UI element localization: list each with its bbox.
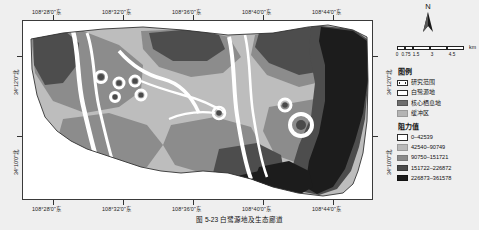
- legend-swatch: [397, 165, 408, 172]
- scale-bar-tick-label: 3: [431, 52, 434, 57]
- lon-tick-label: 108°36'0"东: [172, 8, 201, 16]
- lat-tick-label: 34°12'0"北: [12, 70, 20, 95]
- legend-item-label: 90750–151721: [411, 154, 448, 161]
- legend-swatch: [397, 134, 408, 141]
- scale-bar-tick-label: 4.5: [449, 52, 455, 57]
- lon-tick-label: 108°36'0"东: [172, 205, 201, 213]
- legend-item-label: 研究范围: [411, 79, 435, 86]
- lat-tick-mark: [373, 56, 378, 57]
- scale-bar-unit: km: [469, 44, 476, 50]
- legend-swatch: [397, 90, 408, 97]
- legend: 图例 研究范围 白鹭源地 核心栖息地 缓冲区 阻力值 0–42539 42540…: [397, 66, 477, 184]
- lon-tick-label: 108°40'0"东: [242, 8, 271, 16]
- lon-tick-mark: [53, 200, 54, 205]
- legend-item-label: 151722–226872: [411, 165, 451, 172]
- legend-resistance-class-4[interactable]: 151722–226872: [397, 163, 477, 173]
- legend-item-label: 226873–361578: [411, 175, 451, 182]
- legend-swatch: [397, 110, 408, 117]
- lon-tick-mark: [123, 200, 124, 205]
- lon-tick-label: 108°28'0"东: [32, 205, 61, 213]
- legend-resistance-class-2[interactable]: 42540–90749: [397, 143, 477, 153]
- lat-tick-label: 34°10'0"北: [12, 150, 20, 175]
- scale-bar-tick-label: 1.5: [413, 52, 419, 57]
- legend-item-study-area[interactable]: 研究范围: [397, 78, 477, 88]
- map-canvas[interactable]: [23, 21, 372, 199]
- north-arrow-label: N: [408, 3, 448, 11]
- lon-tick-label: 108°40'0"东: [242, 205, 271, 213]
- legend-swatch: [397, 175, 408, 182]
- legend-item-core-habitat[interactable]: 核心栖息地: [397, 98, 477, 108]
- scale-bar-segment: [447, 46, 464, 50]
- lon-tick-mark: [333, 200, 334, 205]
- scale-bar-segment: [397, 46, 405, 50]
- legend-resistance-class-1[interactable]: 0–42539: [397, 133, 477, 143]
- scale-bar-segment: [405, 46, 413, 50]
- legend-swatch: [397, 144, 408, 151]
- resistance-surface-map: [23, 21, 373, 200]
- north-arrow-icon: [421, 11, 435, 33]
- legend-resistance-class-3[interactable]: 90750–151721: [397, 153, 477, 163]
- legend-subtitle-resistance: 阻力值: [398, 121, 477, 131]
- legend-item-label: 缓冲区: [411, 110, 429, 117]
- legend-title: 图例: [398, 66, 477, 76]
- scale-bar-tick-label: 0: [396, 52, 399, 57]
- figure-root: 108°28'0"东 108°32'0"东 108°36'0"东 108°40'…: [0, 0, 479, 230]
- scale-bar: 0 0.75 1.5 3 4.5 km: [397, 40, 475, 62]
- lon-tick-mark: [193, 200, 194, 205]
- legend-item-label: 白鹭源地: [411, 89, 435, 96]
- map-raster-layers: [23, 21, 373, 200]
- lat-tick-label: 34°10'0"北: [385, 150, 393, 175]
- legend-swatch: [397, 155, 408, 162]
- lat-tick-label: 34°12'0"北: [385, 70, 393, 95]
- lon-tick-label: 108°44'0"东: [312, 205, 341, 213]
- lon-tick-label: 108°32'0"东: [102, 8, 131, 16]
- lon-tick-label: 108°32'0"东: [102, 205, 131, 213]
- lon-tick-label: 108°44'0"东: [312, 8, 341, 16]
- legend-item-buffer-zone[interactable]: 缓冲区: [397, 109, 477, 119]
- lon-tick-mark: [263, 200, 264, 205]
- legend-item-label: 0–42539: [411, 134, 433, 141]
- north-arrow: N: [408, 3, 448, 39]
- scale-bar-segment: [430, 46, 447, 50]
- map-frame[interactable]: [22, 20, 373, 200]
- legend-swatch: [397, 80, 408, 87]
- scale-bar-segment: [413, 46, 430, 50]
- lon-tick-label: 108°28'0"东: [32, 8, 61, 16]
- legend-resistance-class-5[interactable]: 226873–361578: [397, 173, 477, 183]
- lat-tick-mark: [373, 136, 378, 137]
- figure-caption: 图 5-23 白鹭源地及生态廊道: [0, 214, 479, 224]
- legend-item-egret-source[interactable]: 白鹭源地: [397, 88, 477, 98]
- legend-item-label: 核心栖息地: [411, 100, 441, 107]
- legend-item-label: 42540–90749: [411, 144, 445, 151]
- legend-swatch: [397, 100, 408, 107]
- scale-bar-tick-label: 0.75: [402, 52, 411, 57]
